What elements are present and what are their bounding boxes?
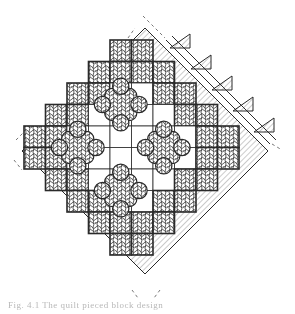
- dark-square: [153, 212, 175, 234]
- dark-square: [46, 169, 68, 191]
- dark-square: [153, 83, 175, 105]
- figure-caption: Fig. 4.1 The quilt pieced block design: [8, 300, 163, 310]
- dark-square: [218, 148, 240, 170]
- dark-square: [46, 105, 68, 127]
- dark-square: [196, 148, 218, 170]
- dark-square: [132, 234, 154, 256]
- dark-square: [67, 83, 89, 105]
- dark-square: [175, 83, 197, 105]
- dark-square: [89, 212, 111, 234]
- dark-square: [67, 191, 89, 213]
- dark-square: [196, 126, 218, 148]
- quilt-diagram: [0, 0, 295, 300]
- dark-square: [218, 126, 240, 148]
- dark-square: [110, 234, 132, 256]
- dark-square: [24, 148, 46, 170]
- dark-square: [153, 62, 175, 84]
- dark-square: [132, 40, 154, 62]
- dark-square: [175, 105, 197, 127]
- dark-square: [196, 105, 218, 127]
- dark-square: [110, 40, 132, 62]
- dark-square: [196, 169, 218, 191]
- dark-square: [153, 191, 175, 213]
- sawtooth-triangle: [212, 76, 232, 90]
- dark-square: [132, 212, 154, 234]
- dark-square: [24, 126, 46, 148]
- sawtooth-triangle: [170, 34, 190, 48]
- dark-square: [132, 62, 154, 84]
- sawtooth-triangle: [233, 97, 253, 111]
- sawtooth-triangle: [191, 55, 211, 69]
- sawtooth-triangle: [254, 118, 274, 132]
- dark-square: [89, 62, 111, 84]
- dark-square: [175, 191, 197, 213]
- dark-square: [175, 169, 197, 191]
